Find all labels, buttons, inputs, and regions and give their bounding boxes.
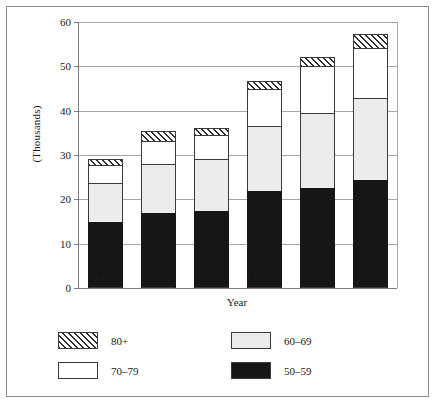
chart-legend: 80+60–6970–7950–59 [58, 332, 388, 388]
legend-label: 60–69 [284, 335, 312, 347]
legend-swatch [231, 332, 271, 349]
bar-segment-70-79 [194, 135, 229, 159]
y-axis-tick-label: 50 [60, 60, 71, 72]
x-axis-tick-label: 1901 [75, 272, 135, 284]
bar-1935 [247, 81, 282, 288]
y-axis-tick-label: 0 [66, 282, 72, 294]
x-axis-tick-label: 1911 [128, 272, 188, 284]
bar-segment-60-69 [88, 183, 123, 222]
legend-label: 50–59 [284, 365, 312, 377]
legend-swatch [231, 362, 271, 379]
bar-segment-60-69 [141, 164, 176, 212]
figure-container: (Thousands) 0102030405060 19011911192119… [0, 0, 435, 403]
bar-segment-70-79 [141, 141, 176, 164]
bar-segment-80plus [247, 81, 282, 89]
x-axis-title: Year [78, 296, 396, 308]
bar-segment-70-79 [247, 89, 282, 126]
bar-segment-70-79 [88, 165, 123, 183]
legend-label: 80+ [111, 335, 128, 347]
legend-item-50-59[interactable]: 50–59 [231, 362, 312, 379]
bar-segment-80plus [353, 34, 388, 48]
bar-1911 [141, 131, 176, 288]
x-axis-tick-label: 1921 [181, 272, 241, 284]
y-axis-tick-label: 30 [60, 149, 71, 161]
legend-item-70-79[interactable]: 70–79 [58, 362, 139, 379]
x-axis-tick-label: 1935 [234, 272, 294, 284]
bar-segment-80plus [300, 57, 335, 65]
y-axis-tick [74, 288, 79, 289]
bar-segment-70-79 [353, 48, 388, 98]
legend-item-80plus[interactable]: 80+ [58, 332, 128, 349]
bar-segment-60-69 [247, 126, 282, 192]
bar-segment-80plus [141, 131, 176, 141]
x-axis-tick-label: 1945 [287, 272, 347, 284]
bar-1951 [353, 34, 388, 288]
bars-layer [79, 22, 397, 288]
bar-segment-80plus [194, 128, 229, 136]
y-axis-tick-label: 60 [60, 16, 71, 28]
plot-area: 0102030405060 [78, 22, 397, 289]
legend-swatch [58, 332, 98, 349]
y-axis-title: (Thousands) [30, 74, 42, 194]
bar-segment-60-69 [300, 113, 335, 188]
legend-swatch [58, 362, 98, 379]
bar-1921 [194, 128, 229, 288]
y-axis-tick-label: 10 [60, 238, 71, 250]
bar-segment-60-69 [194, 159, 229, 210]
bar-1901 [88, 159, 123, 288]
plot-wrapper: (Thousands) 0102030405060 19011911192119… [0, 0, 435, 310]
bar-segment-70-79 [300, 66, 335, 113]
y-axis-tick-label: 40 [60, 105, 71, 117]
y-axis-tick-label: 20 [60, 193, 71, 205]
legend-item-60-69[interactable]: 60–69 [231, 332, 312, 349]
x-axis-tick-label: 1951 [340, 272, 400, 284]
legend-label: 70–79 [111, 365, 139, 377]
bar-segment-60-69 [353, 98, 388, 180]
bar-1945 [300, 57, 335, 288]
